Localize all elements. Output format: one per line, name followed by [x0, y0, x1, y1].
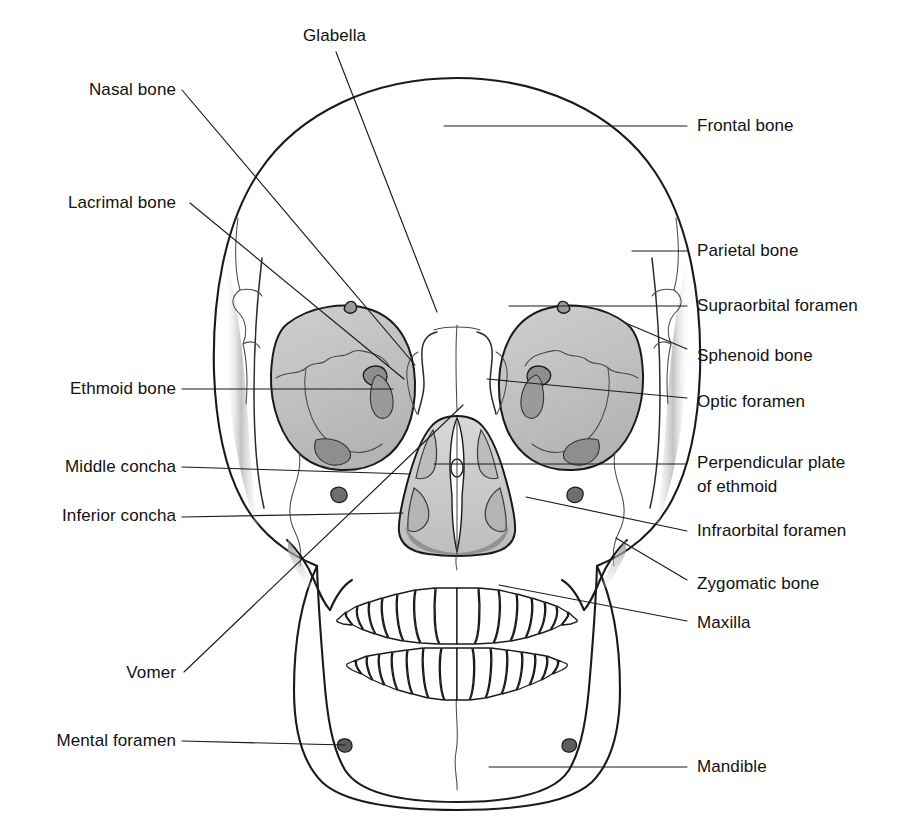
- zygomatic-shadow-right: [598, 540, 626, 596]
- maxilla-lateral-left: [330, 580, 352, 610]
- label-frontal-bone: Frontal bone: [697, 116, 794, 135]
- label-vomer: Vomer: [126, 663, 176, 682]
- label-supraorbital-foramen: Supraorbital foramen: [697, 296, 858, 315]
- teeth-group: [337, 588, 578, 700]
- supraorbital-notch-right: [557, 301, 569, 313]
- label-lacrimal-bone: Lacrimal bone: [68, 193, 176, 212]
- leader-zygomatic-bone: [616, 538, 687, 580]
- sphenoid-ridge-left: [254, 258, 264, 508]
- internasal-suture: [456, 325, 457, 410]
- label-mental-foramen: Mental foramen: [56, 731, 176, 750]
- suture-squamous-right: [654, 342, 671, 348]
- label-ethmoid-bone: Ethmoid bone: [70, 379, 176, 398]
- label-optic-foramen: Optic foramen: [697, 392, 805, 411]
- label-perpendicular-plate: Perpendicular plate: [697, 453, 845, 472]
- tooth-upper-central-right: [457, 588, 479, 644]
- leader-mental-foramen: [182, 741, 345, 745]
- skull-anatomy-figure: Nasal boneLacrimal boneEthmoid boneMiddl…: [0, 0, 914, 824]
- supraorbital-notch-left: [344, 301, 356, 313]
- suture-squamous-left: [243, 342, 260, 348]
- label-infraorbital-foramen: Infraorbital foramen: [697, 521, 846, 540]
- infraorbital-foramen-left: [331, 487, 347, 502]
- label-maxilla: Maxilla: [697, 613, 751, 632]
- upper-teeth-row: [337, 588, 578, 644]
- tooth-lower-central-left: [440, 648, 457, 700]
- tooth-lower-central-right: [457, 648, 474, 700]
- label-mandible: Mandible: [697, 757, 767, 776]
- lower-teeth-row: [347, 648, 568, 700]
- nasal-bone-left: [418, 332, 437, 414]
- anterior-nasal-spine: [456, 552, 457, 570]
- label-sphenoid-bone: Sphenoid bone: [697, 346, 813, 365]
- label-parietal-bone: Parietal bone: [697, 241, 798, 260]
- label-perpendicular-plate-2: of ethmoid: [697, 477, 777, 496]
- label-inferior-concha: Inferior concha: [62, 506, 176, 525]
- label-glabella: Glabella: [303, 26, 367, 45]
- skull-diagram-canvas: Nasal boneLacrimal boneEthmoid boneMiddl…: [0, 0, 914, 824]
- mental-foramen-right: [562, 739, 577, 752]
- sphenoid-ridge-right: [650, 258, 660, 508]
- tooth-upper-central-left: [435, 588, 457, 644]
- nasal-aperture-group: [399, 416, 515, 570]
- orbit-right: [499, 301, 643, 470]
- leader-glabella: [336, 52, 437, 312]
- nasal-bridge-group: [407, 325, 507, 414]
- label-zygomatic-bone: Zygomatic bone: [697, 574, 819, 593]
- maxilla-lateral-right: [562, 580, 584, 610]
- leader-middle-concha: [182, 467, 410, 474]
- orbit-left: [271, 301, 415, 470]
- leader-inferior-concha: [182, 513, 403, 517]
- mandibular-symphysis: [455, 690, 457, 790]
- temporal-fossa-shading-left: [224, 255, 262, 540]
- nasal-bone-right: [477, 332, 496, 414]
- label-middle-concha: Middle concha: [65, 457, 176, 476]
- infraorbital-foramen-right: [567, 487, 583, 502]
- label-nasal-bone: Nasal bone: [89, 80, 176, 99]
